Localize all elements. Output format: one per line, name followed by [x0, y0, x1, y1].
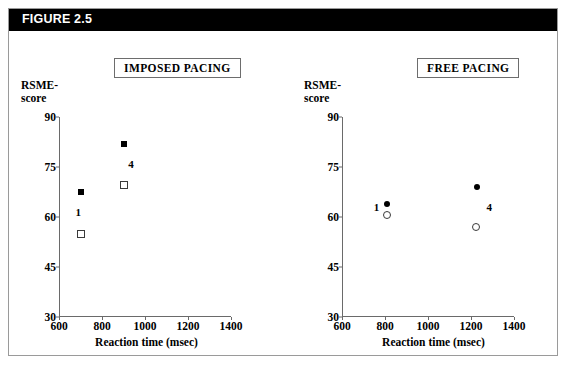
x-axis-title-right: Reaction time (msec) — [296, 336, 566, 348]
x-axis-tick-mark — [385, 317, 386, 320]
x-axis-tick-label: 600 — [50, 320, 67, 332]
y-axis-tick-label: 60 — [45, 211, 57, 223]
y-axis-title-line2: score — [21, 92, 58, 105]
x-axis-tick-label: 800 — [376, 320, 393, 332]
x-axis-title-left: Reaction time (msec) — [9, 336, 284, 348]
data-point-annotation: 1 — [76, 206, 82, 218]
data-point-open-circle — [472, 223, 480, 231]
y-axis-tick-label: 75 — [328, 161, 340, 173]
y-axis-tick-label: 60 — [328, 211, 340, 223]
figure-number-label: FIGURE 2.5 — [22, 12, 92, 26]
x-axis-tick-label: 1200 — [177, 320, 200, 332]
x-axis-tick-mark — [188, 317, 189, 320]
y-axis-tick-mark — [339, 267, 342, 268]
y-axis-tick-mark — [56, 217, 59, 218]
y-axis-tick-label: 90 — [45, 111, 57, 123]
data-point-filled-circle — [474, 184, 480, 190]
y-axis-title-line1: RSME- — [21, 79, 58, 92]
x-axis-tick-mark — [231, 317, 232, 320]
y-axis-title-right: RSME- score — [304, 79, 341, 104]
chart-panel-imposed-pacing: IMPOSED PACING RSME- score 9075604530600… — [9, 31, 284, 357]
x-axis-tick-mark — [59, 317, 60, 320]
x-axis-tick-mark — [428, 317, 429, 320]
x-axis-tick-label: 600 — [333, 320, 350, 332]
figure-header-bar: FIGURE 2.5 — [9, 9, 557, 31]
panel-title-imposed-pacing: IMPOSED PACING — [114, 58, 241, 78]
data-point-annotation: 4 — [487, 201, 493, 213]
x-axis-tick-label: 1000 — [134, 320, 157, 332]
y-axis-tick-mark — [339, 167, 342, 168]
y-axis-tick-mark — [56, 267, 59, 268]
x-axis-tick-mark — [342, 317, 343, 320]
x-axis-tick-mark — [471, 317, 472, 320]
panel-title-free-pacing: FREE PACING — [417, 58, 519, 78]
y-axis-tick-mark — [56, 167, 59, 168]
data-point-annotation: 1 — [374, 201, 380, 213]
x-axis-tick-label: 1000 — [417, 320, 440, 332]
y-axis-title-line1: RSME- — [304, 79, 341, 92]
panels-container: IMPOSED PACING RSME- score 9075604530600… — [9, 31, 557, 357]
x-axis-tick-label: 1400 — [220, 320, 243, 332]
data-point-annotation: 4 — [128, 158, 134, 170]
data-point-filled-circle — [384, 201, 390, 207]
y-axis-line-right — [342, 117, 343, 317]
y-axis-tick-label: 45 — [45, 261, 57, 273]
y-axis-tick-mark — [339, 217, 342, 218]
data-point-open-square — [77, 230, 85, 238]
x-axis-tick-mark — [145, 317, 146, 320]
data-point-open-square — [120, 181, 128, 189]
y-axis-tick-label: 90 — [328, 111, 340, 123]
figure-container: FIGURE 2.5 IMPOSED PACING RSME- score 90… — [8, 8, 558, 356]
chart-panel-free-pacing: FREE PACING RSME- score 9075604530600800… — [292, 31, 566, 357]
y-axis-title-line2: score — [304, 92, 341, 105]
x-axis-tick-label: 800 — [93, 320, 110, 332]
y-axis-line-left — [59, 117, 60, 317]
x-axis-tick-mark — [102, 317, 103, 320]
y-axis-tick-label: 75 — [45, 161, 57, 173]
data-point-filled-square — [78, 189, 84, 195]
x-axis-tick-label: 1400 — [503, 320, 526, 332]
y-axis-title-left: RSME- score — [21, 79, 58, 104]
plot-area-left: 907560453060080010001200140014 — [59, 117, 231, 317]
data-point-open-circle — [383, 211, 391, 219]
y-axis-tick-mark — [339, 117, 342, 118]
y-axis-tick-label: 45 — [328, 261, 340, 273]
x-axis-tick-label: 1200 — [460, 320, 483, 332]
plot-area-right: 907560453060080010001200140014 — [342, 117, 514, 317]
y-axis-tick-mark — [56, 117, 59, 118]
data-point-filled-square — [121, 141, 127, 147]
x-axis-tick-mark — [514, 317, 515, 320]
